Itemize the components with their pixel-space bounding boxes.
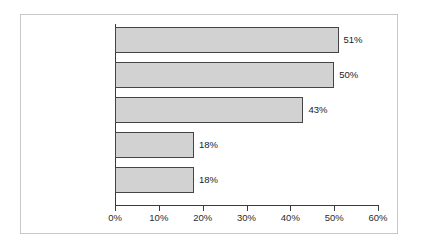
bar <box>115 27 339 53</box>
chart-screenshot: To motivate employees51%To link pay to p… <box>0 0 422 249</box>
x-axis-tick-mark <box>334 206 335 211</box>
x-axis-tick-label: 10% <box>139 212 179 223</box>
x-axis-tick-label: 50% <box>314 212 354 223</box>
bar-value-label: 43% <box>308 97 327 123</box>
x-axis-tick-label: 20% <box>183 212 223 223</box>
x-axis-tick-mark <box>247 206 248 211</box>
bar <box>115 62 334 88</box>
bar-value-label: 50% <box>339 62 358 88</box>
bar <box>115 97 303 123</box>
x-axis-tick-label: 60% <box>358 212 398 223</box>
x-axis-tick-label: 0% <box>95 212 135 223</box>
x-axis-tick-mark <box>115 206 116 211</box>
x-axis-tick-mark <box>159 206 160 211</box>
bar-value-label: 51% <box>344 27 363 53</box>
bar-value-label: 18% <box>199 167 218 193</box>
bar <box>115 167 194 193</box>
x-axis-tick-label: 40% <box>270 212 310 223</box>
x-axis-tick-label: 30% <box>227 212 267 223</box>
bar-value-label: 18% <box>199 132 218 158</box>
x-axis-tick-mark <box>290 206 291 211</box>
x-axis-tick-mark <box>203 206 204 211</box>
bar <box>115 132 194 158</box>
x-axis-tick-mark <box>378 206 379 211</box>
